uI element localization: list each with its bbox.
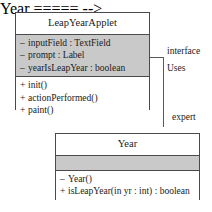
attributes-compartment-leap-year-applet: – inputField : TextField – prompt : Labe… [16, 34, 149, 77]
dependency-connector-horizontal-segment [150, 57, 164, 58]
class-name-year: Year [56, 134, 199, 155]
operation-label: paint() [28, 104, 53, 117]
uml-class-diagram: LeapYearApplet – inputField : TextField … [0, 0, 212, 212]
visibility-marker: – [20, 37, 28, 50]
attributes-compartment-year [56, 155, 199, 170]
class-box-year[interactable]: Year – Year() + isLeapYear(in yr : int) … [55, 133, 200, 200]
class-box-leap-year-applet[interactable]: LeapYearApplet – inputField : TextField … [15, 12, 150, 110]
visibility-marker: + [20, 104, 28, 117]
attribute-row: – inputField : TextField [16, 37, 149, 50]
operation-row: + init() [16, 79, 149, 92]
attribute-label: prompt : Label [28, 49, 84, 62]
edge-label-uses: Uses [167, 64, 185, 74]
attribute-label: inputField : TextField [28, 37, 111, 50]
operation-row: + actionPerformed() [16, 92, 149, 105]
operation-label: actionPerformed() [28, 92, 98, 105]
operations-compartment-leap-year-applet: + init() + actionPerformed() + paint() [16, 76, 149, 119]
operation-row: + isLeapYear(in yr : int) : boolean [56, 185, 199, 198]
operations-compartment-year: – Year() + isLeapYear(in yr : int) : boo… [56, 170, 199, 200]
visibility-marker: – [20, 62, 28, 75]
visibility-marker: + [20, 79, 28, 92]
visibility-marker: + [20, 92, 28, 105]
class-name-leap-year-applet: LeapYearApplet [16, 13, 149, 34]
operation-label: Year() [68, 173, 92, 186]
visibility-marker: + [60, 185, 68, 198]
visibility-marker: – [20, 49, 28, 62]
attribute-row: – prompt : Label [16, 49, 149, 62]
edge-label-expert: expert [172, 113, 196, 123]
operation-row: – Year() [56, 173, 199, 186]
attribute-label: yearIsLeapYear : boolean [28, 62, 125, 75]
attribute-row: – yearIsLeapYear : boolean [16, 62, 149, 75]
operation-label: isLeapYear(in yr : int) : boolean [68, 185, 190, 198]
edge-label-interface: interface [167, 47, 200, 57]
visibility-marker: – [60, 173, 68, 186]
dependency-connector-vertical-segment [163, 57, 164, 127]
operation-label: init() [28, 79, 47, 92]
operation-row: + paint() [16, 104, 149, 117]
